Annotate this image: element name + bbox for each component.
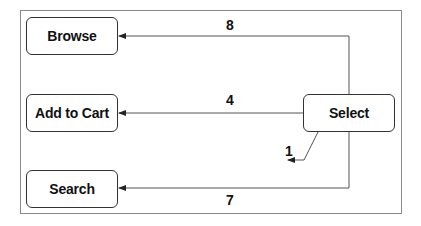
node-browse-label: Browse [47,28,96,44]
edge-label-self-loop: 1 [285,143,293,159]
node-select-label: Select [329,105,369,121]
edge-select-to-search [119,132,349,188]
node-search: Search [26,170,118,208]
node-select: Select [303,94,395,132]
node-search-label: Search [49,181,95,197]
node-add-to-cart: Add to Cart [26,94,118,132]
edge-label-browse: 8 [226,17,234,33]
node-add-to-cart-label: Add to Cart [35,105,109,121]
edge-label-add-to-cart: 4 [226,92,234,108]
edge-label-search: 7 [226,192,234,208]
edge-select-to-browse [119,36,349,94]
node-browse: Browse [26,17,118,55]
